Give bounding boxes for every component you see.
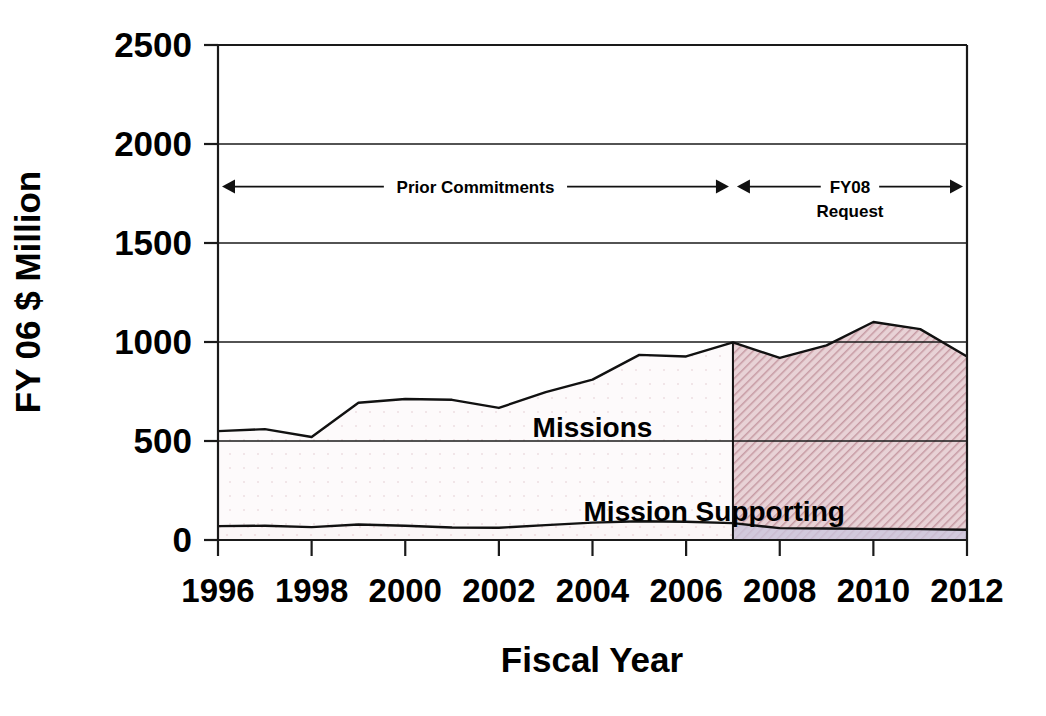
fy08-request-span-text: FY08 xyxy=(830,178,871,197)
x-tick-labels: 199619982000200220042006200820102012 xyxy=(181,572,1003,609)
y-tick-label-2000: 2000 xyxy=(114,124,192,163)
chart-container: 05001000150020002500 1996199820002002200… xyxy=(0,0,1046,716)
fy08-request-span-arrow-right xyxy=(950,180,963,194)
fy08-request-span-text-line2: Request xyxy=(816,202,883,221)
span-annotations: Prior CommitmentsFY08Request xyxy=(222,178,963,221)
prior-commitments-span-arrow-left xyxy=(222,180,235,194)
x-tick-label-2012: 2012 xyxy=(930,572,1003,609)
y-tick-label-0: 0 xyxy=(173,520,192,559)
x-tick-label-1998: 1998 xyxy=(275,572,348,609)
x-tick-label-2008: 2008 xyxy=(743,572,816,609)
y-axis-title: FY 06 $ Million xyxy=(8,171,47,413)
fy08-request-span-arrow-left xyxy=(737,180,750,194)
y-tick-labels: 05001000150020002500 xyxy=(114,25,192,559)
mission-supporting-label: Mission Supporting xyxy=(584,496,845,527)
x-tick-label-1996: 1996 xyxy=(181,572,254,609)
x-tick-label-2006: 2006 xyxy=(649,572,722,609)
prior-commitments-span-arrow-right xyxy=(716,180,729,194)
x-tick-label-2000: 2000 xyxy=(369,572,442,609)
x-tick-label-2010: 2010 xyxy=(837,572,910,609)
missions-label: Missions xyxy=(533,412,653,443)
x-axis-title: Fiscal Year xyxy=(501,640,684,679)
prior-commitments-span-text: Prior Commitments xyxy=(397,178,555,197)
y-tick-label-2500: 2500 xyxy=(114,25,192,64)
y-tick-label-1500: 1500 xyxy=(114,223,192,262)
x-tick-label-2002: 2002 xyxy=(462,572,535,609)
area-chart: 05001000150020002500 1996199820002002200… xyxy=(0,0,1046,716)
y-tick-label-1000: 1000 xyxy=(114,322,192,361)
x-tick-label-2004: 2004 xyxy=(556,572,630,609)
y-tick-label-500: 500 xyxy=(134,421,192,460)
